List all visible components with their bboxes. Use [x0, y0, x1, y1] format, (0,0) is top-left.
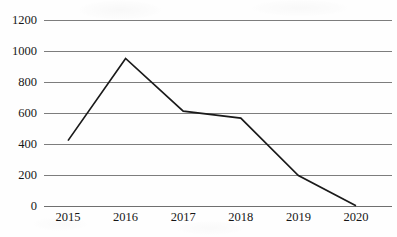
- y-tick-label-1200: 1200: [12, 13, 37, 27]
- chart-plot-area: 1200 1000 800 600 400 200 0 2015 2016 20…: [0, 0, 397, 237]
- y-tick-label-400: 400: [18, 137, 37, 151]
- x-tick-label-2019: 2019: [286, 210, 311, 224]
- x-tick-label-2016: 2016: [113, 210, 138, 224]
- x-axis-tick-labels: 2015 2016 2017 2018 2019 2020: [56, 210, 369, 224]
- y-tick-label-1000: 1000: [12, 44, 37, 58]
- x-tick-label-2020: 2020: [344, 210, 369, 224]
- line-chart: 1200 1000 800 600 400 200 0 2015 2016 20…: [0, 0, 397, 237]
- y-tick-label-800: 800: [18, 75, 37, 89]
- gridline-group: [44, 21, 392, 207]
- x-tick-label-2015: 2015: [56, 210, 81, 224]
- y-tick-label-600: 600: [18, 106, 37, 120]
- y-axis-tick-labels: 1200 1000 800 600 400 200 0: [12, 13, 37, 213]
- data-series-line: [68, 58, 356, 205]
- y-tick-label-200: 200: [18, 168, 37, 182]
- x-tick-label-2018: 2018: [228, 210, 253, 224]
- y-tick-label-0: 0: [31, 199, 37, 213]
- x-tick-label-2017: 2017: [171, 210, 196, 224]
